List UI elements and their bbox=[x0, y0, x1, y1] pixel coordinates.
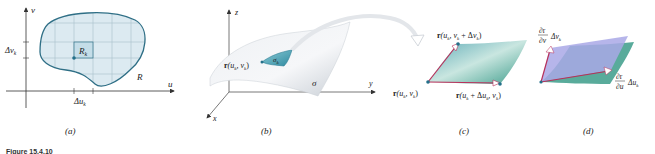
u-axis-label: u bbox=[168, 79, 173, 89]
corner-right-label: r(uk + Δuk, vk) bbox=[456, 91, 501, 101]
sigma-label: σ bbox=[312, 78, 317, 88]
svg-text:Δuk: Δuk bbox=[627, 78, 639, 88]
x-axis bbox=[207, 92, 229, 118]
figure-15-4-10: v u Rk R Δvk Δuk (a) z bbox=[0, 0, 655, 154]
svg-text:∂r: ∂r bbox=[539, 26, 546, 35]
corner-point bbox=[72, 56, 76, 60]
vector-v-label: ∂r ∂v Δvk bbox=[538, 26, 562, 45]
panel-b-label: (b) bbox=[261, 126, 272, 136]
panel-c: r(uk, vk + Δvk) r(uk, vk) r(uk + Δuk, vk… bbox=[393, 31, 527, 136]
panel-d-label: (d) bbox=[583, 126, 594, 136]
svg-text:Δvk: Δvk bbox=[550, 32, 562, 42]
svg-text:∂r: ∂r bbox=[616, 72, 623, 81]
patch-enlarged bbox=[428, 40, 527, 84]
delta-v-label: Δvk bbox=[4, 45, 17, 56]
panel-a-label: (a) bbox=[65, 126, 76, 136]
panel-d: ∂r ∂v Δvk ∂r ∂u Δuk (d) bbox=[538, 26, 639, 136]
svg-text:∂u: ∂u bbox=[616, 82, 624, 91]
figure-caption: Figure 15.4.10 bbox=[6, 148, 53, 154]
svg-text:∂v: ∂v bbox=[539, 36, 547, 45]
r-uk-vk-label: r(uk, vk) bbox=[224, 61, 249, 71]
R-label: R bbox=[136, 72, 143, 82]
y-axis-label: y bbox=[368, 79, 373, 88]
panel-c-label: (c) bbox=[459, 126, 469, 136]
x-axis-label: x bbox=[212, 114, 217, 123]
panel-b: z y x σ σk r(uk, vk) (b) bbox=[207, 8, 424, 136]
corner-origin-label: r(uk, vk) bbox=[393, 89, 418, 99]
delta-u-label: Δuk bbox=[73, 96, 86, 107]
corner-top-label: r(uk, vk + Δvk) bbox=[437, 31, 482, 41]
z-axis-label: z bbox=[234, 8, 239, 17]
panel-a: v u Rk R Δvk Δuk (a) bbox=[0, 0, 174, 136]
vector-u-label: ∂r ∂u Δuk bbox=[615, 72, 639, 91]
v-axis-label: v bbox=[31, 5, 35, 15]
